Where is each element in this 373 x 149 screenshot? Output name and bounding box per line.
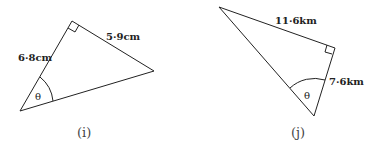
side-label-7-6km: 7·6km bbox=[329, 76, 364, 87]
triangle-i: θ 6·8cm 5·9cm (i) bbox=[18, 21, 154, 140]
side-label-6-8cm: 6·8cm bbox=[18, 52, 52, 63]
angle-arc-j bbox=[290, 78, 325, 88]
theta-label-j: θ bbox=[304, 90, 310, 101]
triangle-j: θ 11·6km 7·6km (j) bbox=[219, 7, 364, 140]
caption-j: (j) bbox=[291, 125, 305, 140]
caption-i: (i) bbox=[77, 125, 91, 140]
side-label-11-6km: 11·6km bbox=[275, 15, 317, 26]
side-label-5-9cm: 5·9cm bbox=[106, 31, 140, 42]
triangles-figure: θ 6·8cm 5·9cm (i) θ 11·6km 7·6km (j) bbox=[0, 0, 373, 149]
theta-label-i: θ bbox=[35, 91, 41, 102]
angle-arc-i bbox=[40, 77, 53, 101]
